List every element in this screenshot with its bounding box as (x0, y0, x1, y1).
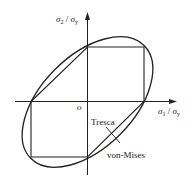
von-mises-label: von-Mises (107, 150, 145, 160)
y-axis-label: σ2 / σy (56, 14, 78, 25)
yield-criteria-diagram: o σ2 / σy σ1 / σy Tresca von-Mises (0, 0, 194, 187)
x-axis-arrow-icon (169, 99, 177, 104)
y-axis-arrow-icon (85, 12, 90, 20)
tresca-label: Tresca (91, 117, 115, 127)
x-axis (15, 99, 177, 104)
x-axis-label: σ1 / σy (158, 106, 180, 117)
y-axis (85, 12, 90, 175)
von-mises-ellipse (0, 13, 177, 187)
origin-label: o (77, 102, 82, 112)
